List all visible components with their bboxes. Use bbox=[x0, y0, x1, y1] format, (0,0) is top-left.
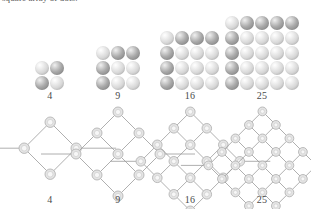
dot-dark bbox=[190, 31, 204, 45]
dot-light bbox=[175, 76, 189, 90]
lattice-node-core bbox=[300, 150, 304, 154]
lattice-node-core bbox=[47, 171, 53, 177]
dot-light bbox=[270, 31, 284, 45]
lattice-node-core bbox=[260, 109, 264, 113]
dot-dark bbox=[50, 61, 64, 75]
dot-light bbox=[190, 46, 204, 60]
square-array-label-16: 16 bbox=[170, 90, 210, 101]
dot-light bbox=[240, 61, 254, 75]
lattice-node-core bbox=[233, 136, 237, 140]
square-array-label-4: 4 bbox=[30, 90, 70, 101]
dot-light bbox=[285, 76, 299, 90]
lattice-node-core bbox=[73, 151, 78, 156]
dot-light bbox=[285, 31, 299, 45]
lattice-node-core bbox=[287, 163, 291, 167]
lattice-node-core bbox=[273, 150, 277, 154]
lattice-label-16: 16 bbox=[170, 194, 210, 205]
dot-light bbox=[205, 76, 219, 90]
square-array-labels: 491625 bbox=[0, 90, 311, 104]
dot-light bbox=[240, 46, 254, 60]
dot-light bbox=[190, 76, 204, 90]
square-array-16 bbox=[160, 31, 219, 90]
dot-light bbox=[126, 76, 140, 90]
dot-dark bbox=[285, 16, 299, 30]
lattice-node-core bbox=[21, 145, 27, 151]
lattice-node-core bbox=[115, 151, 120, 156]
lattice-node-core bbox=[260, 136, 264, 140]
dot-dark bbox=[225, 46, 239, 60]
dot-dark bbox=[96, 61, 110, 75]
lattice-node-core bbox=[115, 109, 120, 114]
lattice-node-core bbox=[155, 175, 160, 180]
lattice-label-4: 4 bbox=[30, 194, 70, 205]
lattice-label-9: 9 bbox=[98, 194, 138, 205]
dot-dark bbox=[175, 31, 189, 45]
dot-dark bbox=[35, 76, 49, 90]
lattice-node-core bbox=[206, 163, 210, 167]
dot-dark bbox=[225, 76, 239, 90]
dot-dark bbox=[225, 31, 239, 45]
dot-light bbox=[35, 61, 49, 75]
dot-grid bbox=[35, 61, 64, 90]
dot-light bbox=[225, 16, 239, 30]
dot-light bbox=[255, 61, 269, 75]
lattice-node-core bbox=[246, 150, 250, 154]
dot-light bbox=[255, 76, 269, 90]
lattice-node-core bbox=[260, 163, 264, 167]
dot-light bbox=[205, 46, 219, 60]
dot-light bbox=[270, 46, 284, 60]
dot-light bbox=[175, 46, 189, 60]
dot-grid bbox=[96, 46, 140, 90]
lattice-node-core bbox=[246, 123, 250, 127]
dot-light bbox=[126, 61, 140, 75]
square-array-label-9: 9 bbox=[98, 90, 138, 101]
dot-light bbox=[205, 61, 219, 75]
lattice-node-core bbox=[273, 177, 277, 181]
lattice-25 bbox=[201, 104, 311, 194]
dot-grid bbox=[225, 16, 299, 90]
dot-dark bbox=[96, 76, 110, 90]
lattice-labels: 491625 bbox=[0, 194, 311, 208]
dot-light bbox=[111, 76, 125, 90]
dot-dark bbox=[160, 76, 174, 90]
lattice-label-25: 25 bbox=[242, 194, 282, 205]
lattice-node-core bbox=[171, 159, 176, 164]
dot-dark bbox=[225, 61, 239, 75]
dot-light bbox=[255, 46, 269, 60]
dot-light bbox=[285, 61, 299, 75]
dot-light bbox=[270, 76, 284, 90]
lattice-node-core bbox=[188, 175, 193, 180]
dot-light bbox=[270, 61, 284, 75]
dot-dark bbox=[205, 31, 219, 45]
lattice-node-core bbox=[138, 159, 143, 164]
dot-light bbox=[160, 31, 174, 45]
lattice-node-core bbox=[188, 142, 193, 147]
square-array-label-25: 25 bbox=[242, 90, 282, 101]
lattice-node-core bbox=[171, 126, 176, 131]
dot-dark bbox=[160, 46, 174, 60]
lattice-node-core bbox=[94, 172, 99, 177]
dot-dark bbox=[270, 16, 284, 30]
lattice-node-core bbox=[300, 177, 304, 181]
dot-light bbox=[285, 46, 299, 60]
lattice-node-core bbox=[233, 163, 237, 167]
dot-light bbox=[240, 31, 254, 45]
lattice-node-core bbox=[94, 130, 99, 135]
dot-light bbox=[255, 31, 269, 45]
rotated-square-lattices bbox=[0, 104, 311, 194]
dot-dark bbox=[255, 16, 269, 30]
lattice-node-core bbox=[219, 177, 223, 181]
dot-dark bbox=[240, 16, 254, 30]
dot-light bbox=[240, 76, 254, 90]
dot-dark bbox=[126, 46, 140, 60]
lattice-node-core bbox=[219, 150, 223, 154]
square-array-25 bbox=[225, 16, 299, 90]
lattice-node-core bbox=[246, 177, 250, 181]
square-array-9 bbox=[96, 46, 140, 90]
dot-light bbox=[96, 46, 110, 60]
dot-dark bbox=[160, 61, 174, 75]
lattice-node-core bbox=[155, 142, 160, 147]
caption-text: square array of dots. bbox=[2, 0, 78, 3]
lattice-node-core bbox=[188, 109, 193, 114]
lattice-node-core bbox=[287, 136, 291, 140]
